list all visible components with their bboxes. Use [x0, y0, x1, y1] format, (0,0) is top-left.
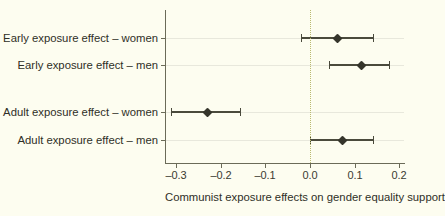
point-marker-adult-men	[337, 135, 347, 145]
ci-cap-high-adult-women	[240, 108, 241, 116]
zero-reference-line	[310, 10, 311, 163]
category-label-early-men: Early exposure effect – men	[18, 59, 158, 71]
x-tick-zero	[310, 163, 311, 168]
plot-area	[165, 10, 404, 163]
ci-cap-low-early-men	[329, 61, 330, 69]
ci-cap-low-early-women	[301, 34, 302, 42]
category-label-adult-men: Adult exposure effect – men	[18, 134, 158, 146]
x-axis-spine	[165, 163, 405, 164]
ci-cap-high-early-women	[373, 34, 374, 42]
x-tick-neg02	[221, 163, 222, 168]
category-label-early-women: Early exposure effect – women	[3, 32, 158, 44]
x-tick-neg01	[265, 163, 266, 168]
x-tick-label-zero: 0.0	[285, 169, 335, 181]
y-tick-row-4	[161, 140, 166, 141]
x-tick-pos02	[399, 163, 400, 168]
point-marker-adult-women	[202, 107, 212, 117]
y-tick-row-2	[161, 65, 166, 66]
x-tick-label-pos01: 0.1	[330, 169, 380, 181]
x-tick-pos01	[355, 163, 356, 168]
x-axis-title: Communist exposure effects on gender equ…	[165, 191, 410, 203]
ci-cap-high-adult-men	[373, 136, 374, 144]
y-tick-row-3	[161, 112, 166, 113]
ci-cap-low-adult-women	[171, 108, 172, 116]
point-marker-early-women	[332, 33, 342, 43]
x-tick-label-neg01: –0.1	[240, 169, 290, 181]
x-tick-label-neg02: –0.2	[196, 169, 246, 181]
y-tick-row-1	[161, 38, 166, 39]
x-tick-label-pos02: 0.2	[374, 169, 424, 181]
x-tick-label-neg03: –0.3	[151, 169, 201, 181]
category-label-adult-women: Adult exposure effect – women	[3, 106, 158, 118]
ci-cap-high-early-men	[389, 61, 390, 69]
x-tick-neg03	[176, 163, 177, 168]
point-marker-early-men	[356, 60, 366, 70]
